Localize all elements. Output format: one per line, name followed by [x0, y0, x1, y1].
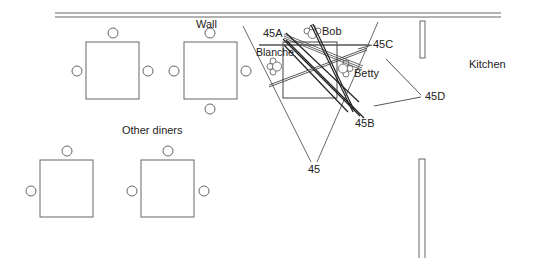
diner-blanche-icon [267, 58, 282, 75]
reference-45b-label: 45B [355, 118, 375, 129]
diner-betty-icon [339, 60, 354, 77]
diner-bob-label: Bob [322, 26, 342, 37]
other-table-1 [72, 28, 153, 99]
wall-label: Wall [196, 19, 217, 30]
other-diners-label: Other diners [122, 125, 183, 136]
diner-blanche-label: Blanche [256, 47, 294, 58]
chair [72, 66, 82, 76]
reference-45-label: 45 [308, 164, 320, 175]
chair [62, 146, 72, 156]
chair [163, 146, 173, 156]
other-table-3 [26, 146, 93, 217]
reference-45a-label: 45A [263, 28, 283, 39]
top-wall [55, 13, 501, 17]
reference-45d-label: 45D [425, 91, 445, 102]
other-table-4 [127, 146, 209, 217]
leader-45d [374, 59, 421, 106]
chair [26, 186, 36, 196]
chair [199, 186, 209, 196]
chair [108, 28, 118, 38]
chair [205, 104, 215, 114]
chair [127, 186, 137, 196]
chair [169, 66, 179, 76]
kitchen-wall-upper [420, 21, 425, 58]
kitchen-wall-lower [419, 159, 425, 258]
kitchen-label: Kitchen [469, 59, 506, 70]
reference-45c-label: 45C [373, 39, 393, 50]
diner-betty-label: Betty [354, 68, 379, 79]
chair [143, 66, 153, 76]
other-table-2 [169, 28, 251, 114]
chair [241, 66, 251, 76]
camera-field-of-view-45 [243, 22, 378, 162]
